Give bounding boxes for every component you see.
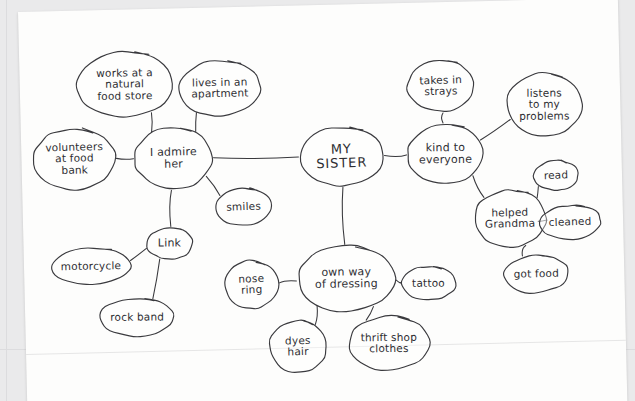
node-bubble-link[interactable] — [146, 227, 193, 259]
edge-kind-to-everyone-to-listens-problems — [480, 119, 511, 139]
edge-helped-grandma-to-read — [537, 186, 539, 197]
node-bubble-read[interactable] — [533, 160, 579, 191]
node-bubble-volunteers-food-bank[interactable] — [33, 127, 117, 191]
paper-sheet: MY SISTERI admire herkind to everyoneown… — [18, 0, 628, 401]
edge-own-way-dressing-to-dyes-hair — [315, 306, 318, 324]
edge-i-admire-her-to-volunteers-food-bank — [116, 158, 133, 160]
node-bubble-rock-band[interactable] — [100, 298, 175, 338]
edge-i-admire-her-to-link — [169, 190, 172, 226]
node-bubble-my-sister[interactable] — [300, 126, 384, 187]
node-bubble-takes-in-strays[interactable] — [406, 60, 474, 113]
edge-i-admire-her-to-lives-apartment — [195, 113, 197, 132]
edge-link-to-rock-band — [152, 259, 161, 299]
node-bubble-thrift-shop[interactable] — [349, 315, 431, 372]
node-bubble-nose-ring[interactable] — [224, 259, 279, 309]
node-bubble-got-food[interactable] — [503, 254, 568, 294]
scene: MY SISTERI admire herkind to everyoneown… — [0, 0, 635, 401]
node-bubble-own-way-dressing[interactable] — [298, 244, 396, 313]
bubble-layer — [31, 40, 604, 378]
node-bubble-cleaned[interactable] — [539, 204, 601, 240]
node-bubble-kind-to-everyone[interactable] — [407, 124, 484, 184]
mind-map-canvas — [18, 0, 628, 401]
edge-kind-to-everyone-to-helped-grandma — [473, 175, 484, 197]
edge-kind-to-everyone-to-takes-in-strays — [441, 113, 443, 123]
edge-own-way-dressing-to-nose-ring — [279, 281, 296, 283]
edge-my-sister-to-own-way-dressing — [342, 187, 345, 244]
node-bubble-lives-apartment[interactable] — [178, 60, 261, 117]
node-bubble-tattoo[interactable] — [401, 266, 456, 300]
edge-own-way-dressing-to-thrift-shop — [366, 307, 374, 321]
node-bubble-listens-problems[interactable] — [506, 72, 583, 137]
node-bubble-works-food-store[interactable] — [76, 50, 174, 118]
node-bubble-dyes-hair[interactable] — [269, 320, 327, 373]
node-bubble-helped-grandma[interactable] — [475, 189, 547, 248]
edge-helped-grandma-to-got-food — [522, 245, 526, 255]
edge-i-admire-her-to-smiles — [206, 176, 220, 196]
paper-wrapper: MY SISTERI admire herkind to everyoneown… — [0, 0, 635, 401]
edge-own-way-dressing-to-tattoo — [396, 280, 400, 283]
edge-my-sister-to-i-admire-her — [213, 156, 298, 160]
edge-i-admire-her-to-works-food-store — [151, 113, 152, 132]
edge-link-to-motorcycle — [130, 248, 146, 260]
node-bubble-smiles[interactable] — [215, 187, 272, 225]
node-bubble-motorcycle[interactable] — [51, 247, 131, 285]
edge-my-sister-to-kind-to-everyone — [384, 155, 406, 157]
node-bubble-i-admire-her[interactable] — [134, 127, 213, 190]
